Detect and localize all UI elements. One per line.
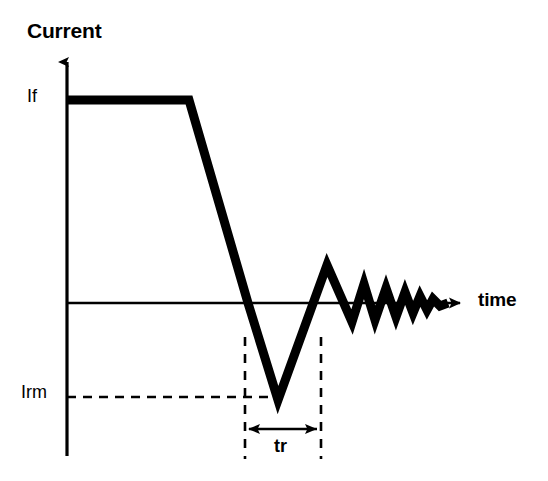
recovery-time-label: tr bbox=[274, 437, 287, 455]
reverse-recovery-peak-label: Irm bbox=[21, 383, 47, 401]
x-axis-title: time bbox=[478, 290, 516, 309]
waveform-canvas bbox=[0, 0, 548, 481]
y-axis-title: Current bbox=[27, 20, 101, 41]
reverse-recovery-figure: Current time If Irm tr bbox=[0, 0, 548, 481]
forward-current-label: If bbox=[27, 87, 37, 105]
diode-current-waveform bbox=[67, 100, 448, 400]
